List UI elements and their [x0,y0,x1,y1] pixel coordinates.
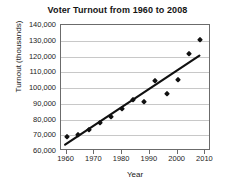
voter-turnout-chart: Voter Turnout from 1960 to 2008 Turnout … [0,0,235,189]
x-axis-tick-label: 2010 [186,154,222,163]
data-point-marker [97,120,103,126]
data-point-marker [86,127,92,133]
data-point-marker [63,134,69,140]
y-axis-tick-label: 100,000 [0,83,56,92]
y-axis-tick-label: 110,000 [0,67,56,76]
data-point-marker [152,78,158,84]
data-point-marker [119,106,125,112]
trend-line [61,25,209,149]
y-axis-tick-label: 120,000 [0,51,56,60]
data-point-marker [197,37,203,43]
y-axis-tick-label: 90,000 [0,98,56,107]
x-axis-title: Year [60,170,210,179]
chart-title: Voter Turnout from 1960 to 2008 [0,5,235,15]
gridline [61,88,209,89]
gridline [61,135,209,136]
data-point-marker [175,76,181,82]
data-point-marker [163,91,169,97]
gridline [61,57,209,58]
gridline [61,41,209,42]
data-point-marker [130,96,136,102]
plot-area [60,24,210,150]
data-point-marker [75,132,81,138]
y-axis-tick-label: 70,000 [0,130,56,139]
y-axis-tick-label: 130,000 [0,35,56,44]
y-axis-tick-label: 80,000 [0,114,56,123]
gridline [61,120,209,121]
gridline [61,72,209,73]
gridline [61,104,209,105]
y-axis-tick-label: 140,000 [0,20,56,29]
